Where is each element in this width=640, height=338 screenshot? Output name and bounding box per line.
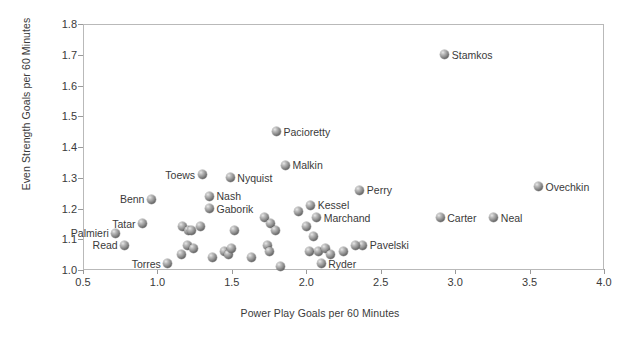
data-point-marker[interactable] — [317, 259, 326, 268]
data-point-marker[interactable] — [189, 244, 198, 253]
y-axis-tick-label: 1.2 — [43, 203, 77, 215]
data-point-marker[interactable] — [111, 229, 120, 238]
data-point-marker[interactable] — [309, 232, 318, 241]
x-axis-tick-label: 0.5 — [63, 276, 103, 288]
data-point-marker[interactable] — [436, 213, 445, 222]
data-point-marker[interactable] — [339, 247, 348, 256]
data-point-marker[interactable] — [247, 253, 256, 262]
x-axis-tick-label: 3.5 — [510, 276, 550, 288]
x-axis-tick-label: 2.5 — [361, 276, 401, 288]
data-point-marker[interactable] — [177, 250, 186, 259]
y-axis-tick-label: 1.5 — [43, 110, 77, 122]
data-point-label: Ryder — [328, 258, 356, 270]
data-point-marker[interactable] — [351, 241, 360, 250]
data-point-label: Pacioretty — [284, 126, 331, 138]
data-point-label: Ovechkin — [546, 181, 590, 193]
data-point-marker[interactable] — [230, 226, 239, 235]
plot-area — [83, 24, 604, 270]
data-point-label: Pavelski — [370, 239, 409, 251]
data-point-label: Marchand — [324, 212, 371, 224]
data-point-label: Nyquist — [237, 172, 272, 184]
y-axis-tick-label: 1.4 — [43, 141, 77, 153]
y-axis-tick-label: 1.0 — [43, 264, 77, 276]
data-point-label: Toews — [165, 169, 195, 181]
data-point-marker[interactable] — [120, 241, 129, 250]
data-point-label: Gaborik — [217, 203, 254, 215]
x-axis-tick-label: 2.0 — [286, 276, 326, 288]
y-axis-tick-label: 1.6 — [43, 80, 77, 92]
data-point-label: Palmieri — [71, 227, 109, 239]
data-point-label: Perry — [367, 184, 392, 196]
y-axis-tick-label: 1.3 — [43, 172, 77, 184]
x-axis-tick-label: 1.0 — [137, 276, 177, 288]
x-axis-tick-label: 1.5 — [212, 276, 252, 288]
data-point-marker[interactable] — [205, 192, 214, 201]
data-point-label: Read — [93, 239, 118, 251]
y-axis-title: Even Strength Goals per 60 Minutes — [20, 0, 32, 214]
data-point-marker[interactable] — [187, 226, 196, 235]
data-point-label: Benn — [120, 193, 145, 205]
data-point-label: Nash — [217, 190, 242, 202]
data-point-marker[interactable] — [305, 247, 314, 256]
data-point-marker[interactable] — [355, 186, 364, 195]
data-point-marker[interactable] — [326, 250, 335, 259]
data-point-label: Kessel — [318, 199, 350, 211]
data-point-label: Neal — [501, 212, 523, 224]
scatter-chart-figure: Even Strength Goals per 60 Minutes Power… — [0, 0, 640, 338]
data-point-label: Malkin — [292, 159, 322, 171]
x-axis-tick-label: 3.0 — [435, 276, 475, 288]
data-point-label: Stamkos — [452, 49, 493, 61]
data-point-marker[interactable] — [147, 195, 156, 204]
data-point-label: Torres — [132, 258, 161, 270]
x-axis-tick-mark — [604, 269, 605, 274]
data-point-marker[interactable] — [198, 170, 207, 179]
y-axis-tick-label: 1.8 — [43, 18, 77, 30]
x-axis-title: Power Play Goals per 60 Minutes — [0, 307, 640, 319]
x-axis-tick-label: 4.0 — [584, 276, 624, 288]
y-axis-tick-label: 1.7 — [43, 49, 77, 61]
data-point-marker[interactable] — [281, 161, 290, 170]
data-point-marker[interactable] — [271, 226, 280, 235]
data-point-marker[interactable] — [276, 262, 285, 271]
data-point-label: Carter — [447, 212, 476, 224]
data-point-marker[interactable] — [265, 247, 274, 256]
data-point-marker[interactable] — [205, 204, 214, 213]
